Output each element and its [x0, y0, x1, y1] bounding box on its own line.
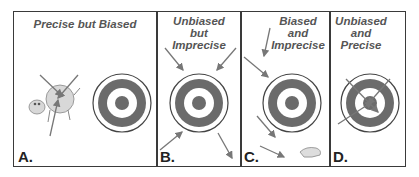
target-c — [263, 74, 321, 132]
hand-icon — [300, 148, 321, 158]
diagram-art — [0, 0, 419, 177]
target-b — [170, 74, 228, 132]
target-a — [93, 74, 151, 132]
